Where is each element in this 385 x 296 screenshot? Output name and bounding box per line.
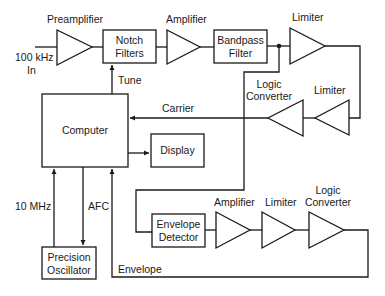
- ten-mhz-label: 10 MHz: [15, 200, 51, 212]
- envelope-limiter-label: Limiter: [265, 196, 297, 208]
- envelope-detector-label-1: Envelope: [157, 218, 201, 230]
- limiter-label: Limiter: [292, 11, 324, 23]
- tune-label: Tune: [118, 74, 142, 86]
- envelope-detector-label-2: Detector: [159, 231, 199, 243]
- envelope-logic-triangle: [309, 212, 344, 248]
- display-label: Display: [160, 144, 195, 156]
- logic-converter-label-2: Converter: [246, 90, 293, 102]
- envelope-label: Envelope: [118, 263, 162, 275]
- computer-label: Computer: [62, 124, 109, 136]
- bandpass-label-1: Bandpass: [217, 34, 264, 46]
- afc-label: AFC: [88, 200, 109, 212]
- carrier-label: Carrier: [162, 102, 195, 114]
- amplifier-label: Amplifier: [166, 13, 207, 25]
- oscillator-label-2: Oscillator: [47, 264, 91, 276]
- envelope-amplifier-triangle: [216, 212, 250, 248]
- input-label: 100 kHz: [15, 51, 54, 63]
- bandpass-label-2: Filter: [229, 47, 253, 59]
- limiter2-label: Limiter: [314, 84, 346, 96]
- envelope-logic-label-1: Logic: [315, 184, 340, 196]
- block-diagram: 100 kHz In Preamplifier Notch Filters Am…: [0, 0, 385, 296]
- envelope-limiter-triangle: [262, 212, 295, 248]
- limiter2-triangle: [315, 100, 349, 135]
- logic-converter-label-1: Logic: [256, 78, 281, 90]
- preamplifier-triangle: [57, 30, 92, 65]
- amplifier-triangle: [167, 30, 200, 64]
- notch-filters-label-2: Filters: [115, 47, 144, 59]
- logic-converter-triangle: [268, 100, 303, 136]
- envelope-logic-label-2: Converter: [305, 196, 352, 208]
- limiter-triangle: [290, 28, 325, 64]
- notch-filters-label-1: Notch: [116, 34, 144, 46]
- envelope-amplifier-label: Amplifier: [214, 196, 255, 208]
- input-label-in: In: [27, 64, 36, 76]
- preamplifier-label: Preamplifier: [47, 13, 104, 25]
- oscillator-label-1: Precision: [47, 251, 90, 263]
